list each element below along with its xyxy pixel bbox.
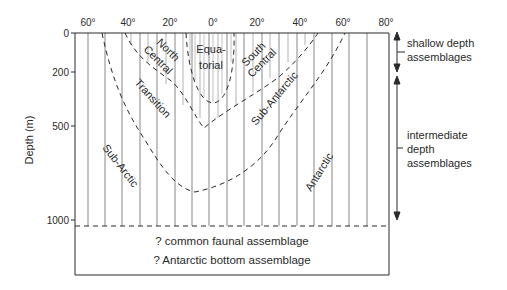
intermediate-label-3: assemblages — [407, 157, 472, 169]
svg-text:60°: 60° — [80, 17, 95, 28]
svg-text:40°: 40° — [292, 17, 307, 28]
shallow-label-2: assemblages — [407, 51, 472, 63]
latitude-lines — [88, 33, 367, 226]
svg-text:200: 200 — [52, 67, 69, 78]
depth-legend: shallow depth assemblages intermediate d… — [407, 37, 474, 169]
y-axis-labels: 0 200 500 1000 — [47, 28, 70, 226]
svg-text:1000: 1000 — [47, 215, 70, 226]
transition-boundary — [102, 33, 345, 192]
shallow-label-1: shallow depth — [407, 37, 474, 49]
svg-text:0°: 0° — [208, 17, 218, 28]
svg-text:20°: 20° — [162, 17, 177, 28]
label-equa: Equa- — [196, 43, 226, 55]
label-sub-arctic: Sub-Arctic — [100, 142, 141, 190]
y-axis-title: Depth (m) — [23, 116, 35, 165]
svg-text:500: 500 — [52, 121, 69, 132]
svg-text:20°: 20° — [249, 17, 264, 28]
depth-range-arrows — [394, 32, 405, 220]
intermediate-label-2: depth — [407, 143, 435, 155]
label-torial: torial — [199, 59, 223, 71]
intermediate-label-1: intermediate — [407, 129, 468, 141]
common-faunal-label: ? common faunal assemblage — [155, 235, 308, 247]
svg-text:60°: 60° — [335, 17, 350, 28]
label-sub-antarctic: Sub-Antarctic — [248, 69, 300, 128]
label-transition: Transition — [133, 76, 174, 120]
svg-text:40°: 40° — [120, 17, 135, 28]
antarctic-bottom-label: ? Antarctic bottom assemblage — [153, 254, 310, 266]
depth-latitude-diagram: 60° 40° 20° 0° 20° 40° 60° 80° 0 200 500… — [0, 0, 507, 290]
bottom-box-text: ? common faunal assemblage ? Antarctic b… — [153, 235, 310, 266]
x-axis-labels: 60° 40° 20° 0° 20° 40° 60° 80° — [80, 17, 393, 28]
svg-text:80°: 80° — [378, 17, 393, 28]
svg-text:0: 0 — [63, 28, 69, 39]
label-antarctic: Antarctic — [303, 150, 336, 193]
